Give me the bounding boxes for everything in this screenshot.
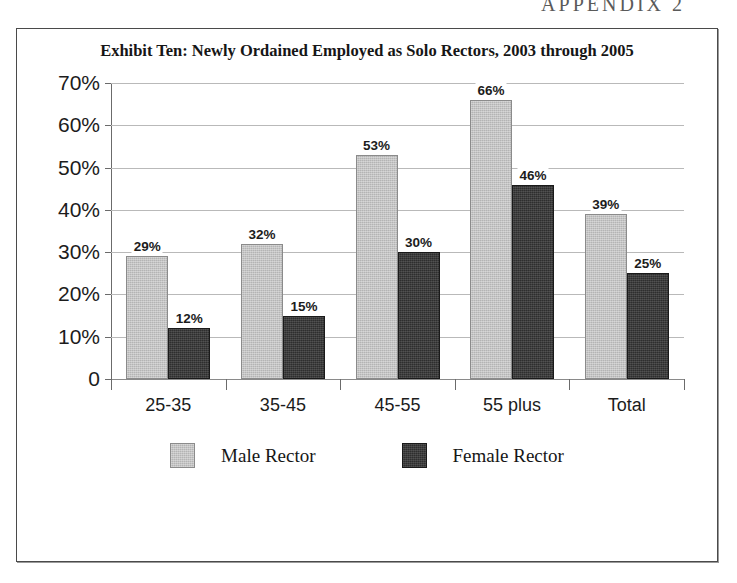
bar-male-55-plus[interactable]: 66%: [470, 100, 512, 379]
y-tick-mark-40: [105, 210, 111, 211]
x-tick-mark: [111, 379, 112, 390]
bar-male-35-45[interactable]: 32%: [241, 244, 283, 379]
legend-label: Male Rector: [221, 445, 315, 467]
bar-value-label: 30%: [403, 235, 434, 250]
bar-group-25-35: 29%12%: [126, 83, 210, 379]
bar-female-Total[interactable]: 25%: [627, 273, 669, 379]
legend-label: Female Rector: [453, 445, 564, 467]
gridline-0: [111, 379, 684, 380]
x-tick-mark: [226, 379, 227, 390]
bar-male-Total[interactable]: 39%: [585, 214, 627, 379]
chart-title: Exhibit Ten: Newly Ordained Employed as …: [17, 41, 717, 61]
bar-female-25-35[interactable]: 12%: [168, 328, 210, 379]
bar-group-Total: 39%25%: [585, 83, 669, 379]
x-tick-mark: [684, 379, 685, 390]
y-tick-label: 40%: [58, 198, 100, 222]
y-tick-mark-70: [105, 83, 111, 84]
figure-frame: Exhibit Ten: Newly Ordained Employed as …: [16, 28, 718, 562]
bar-value-label: 46%: [518, 168, 549, 183]
x-tick-mark: [569, 379, 570, 390]
bar-group-35-45: 32%15%: [241, 83, 325, 379]
y-tick-label: 30%: [58, 240, 100, 264]
y-tick-label: 50%: [58, 156, 100, 180]
y-tick-mark-50: [105, 168, 111, 169]
y-tick-mark-30: [105, 252, 111, 253]
x-tick-mark: [455, 379, 456, 390]
chart-legend: Male RectorFemale Rector: [17, 443, 717, 468]
bar-value-label: 53%: [361, 138, 392, 153]
bar-male-45-55[interactable]: 53%: [356, 155, 398, 379]
y-tick-label: 70%: [58, 71, 100, 95]
x-tick-mark: [340, 379, 341, 390]
legend-swatch-female-icon: [402, 443, 427, 468]
bar-female-55-plus[interactable]: 46%: [512, 185, 554, 380]
y-tick-label: 60%: [58, 113, 100, 137]
bar-female-45-55[interactable]: 30%: [398, 252, 440, 379]
x-category-label-35-45: 35-45: [260, 395, 306, 416]
bar-value-label: 25%: [632, 256, 663, 271]
bar-value-label: 39%: [590, 197, 621, 212]
y-tick-label: 0: [88, 367, 100, 391]
legend-item-female[interactable]: Female Rector: [402, 443, 564, 468]
x-category-label-55-plus: 55 plus: [483, 395, 541, 416]
bar-group-45-55: 53%30%: [356, 83, 440, 379]
bar-value-label: 12%: [174, 311, 205, 326]
plot-area: 70%60%50%40%30%20%10%0 29%12%32%15%53%30…: [111, 83, 684, 379]
bar-value-label: 29%: [132, 239, 163, 254]
bar-male-25-35[interactable]: 29%: [126, 256, 168, 379]
legend-swatch-male-icon: [170, 443, 195, 468]
bar-value-label: 15%: [288, 299, 319, 314]
bar-group-55-plus: 66%46%: [470, 83, 554, 379]
x-category-label-Total: Total: [608, 395, 646, 416]
y-tick-label: 20%: [58, 282, 100, 306]
y-tick-mark-20: [105, 294, 111, 295]
y-axis-line: [111, 83, 112, 379]
x-category-label-25-35: 25-35: [145, 395, 191, 416]
legend-item-male[interactable]: Male Rector: [170, 443, 315, 468]
bar-female-35-45[interactable]: 15%: [283, 316, 325, 379]
bar-value-label: 32%: [246, 227, 277, 242]
page-running-head: APPENDIX 2: [0, 0, 737, 16]
bar-value-label: 66%: [476, 83, 507, 98]
y-tick-mark-60: [105, 125, 111, 126]
y-tick-mark-10: [105, 337, 111, 338]
x-category-label-45-55: 45-55: [374, 395, 420, 416]
y-tick-label: 10%: [58, 325, 100, 349]
